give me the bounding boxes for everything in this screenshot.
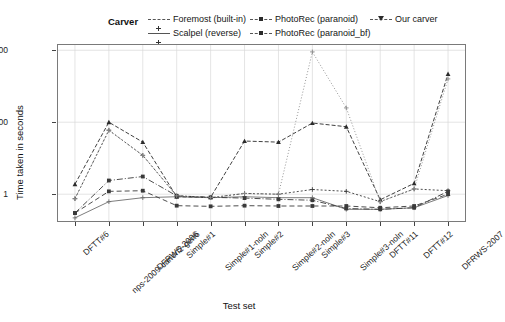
y-tick-mark bbox=[52, 50, 56, 51]
series-foremost-high bbox=[73, 50, 451, 204]
data-point bbox=[310, 187, 315, 192]
x-tick-mark bbox=[414, 222, 415, 226]
series-foremost-built-in bbox=[73, 128, 451, 204]
legend-label: PhotoRec (paranoid_bf) bbox=[272, 28, 371, 38]
data-point bbox=[209, 204, 213, 208]
plot-svg bbox=[58, 45, 465, 221]
data-point bbox=[344, 189, 349, 194]
y-tick-mark bbox=[52, 122, 56, 123]
x-tick-mark bbox=[211, 222, 212, 226]
x-tick-label: DFRWS-2007 bbox=[460, 229, 505, 272]
x-tick-mark bbox=[312, 222, 313, 226]
y-tick-label: 100 bbox=[0, 117, 8, 127]
legend-label: PhotoRec (paranoid) bbox=[272, 14, 358, 24]
data-point bbox=[378, 207, 382, 211]
legend-label: Scalpel (reverse) bbox=[170, 28, 241, 38]
x-tick-mark bbox=[109, 222, 110, 226]
data-point bbox=[378, 199, 383, 204]
legend-item-scalpel-reverse[interactable]: Scalpel (reverse) bbox=[148, 27, 246, 39]
legend: Carver Foremost (built-in)Scalpel (rever… bbox=[0, 8, 478, 40]
x-tick-mark bbox=[75, 222, 76, 226]
y-tick-label: 1 bbox=[0, 189, 8, 199]
legend-item-photorec-paranoid[interactable]: PhotoRec (paranoid) bbox=[250, 13, 371, 25]
data-point bbox=[344, 106, 349, 111]
plot-area bbox=[57, 44, 466, 222]
legend-item-our-carver[interactable]: Our carver bbox=[370, 13, 438, 25]
data-point bbox=[73, 211, 77, 215]
x-tick-mark bbox=[177, 222, 178, 226]
legend-title: Carver bbox=[108, 16, 138, 27]
x-tick-mark bbox=[143, 222, 144, 226]
data-point bbox=[141, 189, 145, 193]
data-point bbox=[276, 192, 281, 197]
legend-swatch-triangle-icon bbox=[370, 13, 392, 25]
y-axis-title: Time taken in seconds bbox=[14, 105, 25, 200]
legend-label: Our carver bbox=[392, 14, 438, 24]
data-point bbox=[140, 140, 145, 144]
data-point bbox=[446, 189, 450, 193]
data-point bbox=[310, 204, 314, 208]
data-point bbox=[242, 191, 247, 196]
y-tick-mark bbox=[52, 194, 56, 195]
legend-column-2: PhotoRec (paranoid)PhotoRec (paranoid_bf… bbox=[250, 13, 371, 41]
y-tick-label: 10000 bbox=[0, 45, 8, 55]
legend-swatch-plus-icon bbox=[148, 13, 170, 25]
x-tick-mark bbox=[346, 222, 347, 226]
data-point bbox=[310, 198, 314, 202]
legend-item-photorec-paranoid-bf[interactable]: PhotoRec (paranoid_bf) bbox=[250, 27, 371, 39]
data-point bbox=[73, 182, 78, 186]
data-point bbox=[277, 197, 281, 201]
legend-swatch-square-icon bbox=[250, 13, 272, 25]
data-point bbox=[242, 139, 247, 143]
data-point bbox=[412, 187, 417, 192]
data-point bbox=[73, 196, 78, 201]
legend-item-foremost-built-in[interactable]: Foremost (built-in) bbox=[148, 13, 246, 25]
series-photorec-paranoid bbox=[73, 189, 450, 215]
data-point bbox=[243, 204, 247, 208]
data-point bbox=[412, 206, 416, 210]
legend-column-3: Our carver bbox=[370, 13, 438, 27]
data-point bbox=[107, 189, 111, 193]
series-our-carver bbox=[73, 72, 451, 202]
data-point bbox=[73, 216, 78, 221]
data-point bbox=[107, 179, 111, 183]
data-point bbox=[175, 204, 179, 208]
x-tick-mark bbox=[245, 222, 246, 226]
data-point bbox=[344, 207, 348, 211]
x-tick-label: DFTT#12 bbox=[421, 229, 454, 260]
data-point bbox=[243, 196, 247, 200]
data-point bbox=[446, 72, 451, 76]
legend-column-1: Foremost (built-in)Scalpel (reverse) bbox=[148, 13, 246, 41]
data-point bbox=[141, 175, 145, 179]
data-point bbox=[277, 204, 281, 208]
x-tick-mark bbox=[448, 222, 449, 226]
legend-swatch-square-icon bbox=[250, 27, 272, 39]
legend-swatch-plus-icon bbox=[148, 27, 170, 39]
data-point bbox=[140, 195, 145, 200]
x-tick-mark bbox=[278, 222, 279, 226]
x-tick-mark bbox=[380, 222, 381, 226]
x-tick-label: DFTT#6 bbox=[81, 229, 111, 257]
gridlines bbox=[58, 45, 465, 221]
x-axis-title: Test set bbox=[0, 300, 478, 311]
legend-label: Foremost (built-in) bbox=[170, 14, 246, 24]
data-point bbox=[107, 199, 112, 204]
